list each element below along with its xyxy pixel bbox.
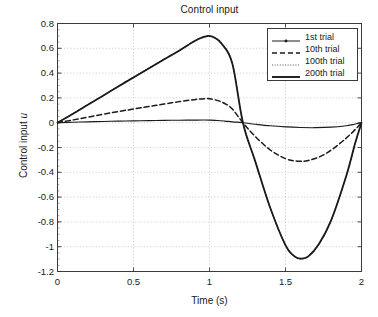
y-axis-label-variable: u [18,113,29,119]
x-axis-label: Time (s) [57,295,362,306]
x-tick-label: 1.5 [266,276,306,287]
legend-label: 1st trial [301,32,334,42]
x-tick-label: 0.5 [114,276,154,287]
legend-swatch-dotted-icon [271,56,301,66]
legend-swatch-thick-solid-icon [271,68,301,78]
legend-item-100th-trial: 100th trial [268,55,357,67]
legend-label: 200th trial [301,68,345,78]
y-tick-label: 0.6 [14,42,54,53]
legend-label: 10th trial [301,44,340,54]
legend-item-10th-trial: 10th trial [268,43,357,55]
y-tick-label: -1 [14,241,54,252]
x-tick-label: 2 [342,276,378,287]
x-tick-label: 0 [38,276,78,287]
legend-swatch-dashed-icon [271,44,301,54]
legend-label: 100th trial [301,56,345,66]
legend-item-200th-trial: 200th trial [268,67,357,79]
y-tick-label: 0.8 [14,18,54,29]
legend-swatch-solid-marker-icon [271,32,301,42]
legend-item-1st-trial: 1st trial [268,31,357,43]
y-axis-label-text: Control input [18,119,29,178]
y-axis-label: Control input u [18,66,29,226]
chart-figure: Control input 0.80.60.40.20-0.2-0.4-0.6-… [0,0,378,317]
chart-legend: 1st trial 10th trial 100th trial 200th t… [267,28,358,81]
x-tick-label: 1 [190,276,230,287]
